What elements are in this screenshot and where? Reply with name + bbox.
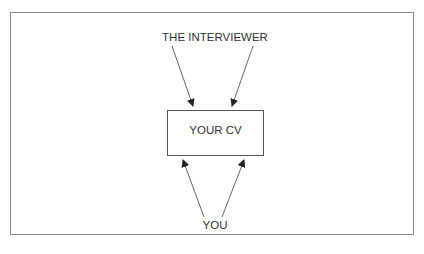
arrow-you-right [222, 160, 244, 217]
arrow-you-left [183, 160, 204, 217]
arrows [0, 0, 424, 254]
arrow-interviewer-left [172, 46, 193, 106]
arrow-interviewer-right [232, 46, 253, 106]
